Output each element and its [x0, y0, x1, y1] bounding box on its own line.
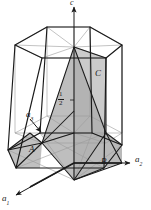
point-label-A: A: [29, 145, 35, 154]
point-label-C: C: [95, 69, 101, 78]
axis-label-a1: a1: [2, 194, 9, 205]
axis-label-a3: a3: [26, 110, 33, 121]
hexagonal-unit-cell-svg: [0, 0, 151, 210]
edge-left: [8, 45, 15, 150]
fraction-denominator: 2: [58, 100, 64, 107]
axis-label-a1-sub: 1: [7, 200, 10, 206]
fraction-numerator: 1: [58, 91, 64, 98]
figure-canvas: c a1 a2 a3 A B C 1 2: [0, 0, 151, 210]
edge-back-left: [40, 27, 47, 133]
axis-label-a2-sub: 2: [140, 161, 143, 167]
axis-label-a2: a2: [135, 155, 142, 166]
point-label-B: B: [101, 157, 107, 166]
half-intercept-label: 1 2: [58, 91, 64, 107]
axis-label-a3-sub: 3: [31, 116, 34, 122]
top-hexagon: [15, 27, 122, 58]
axis-label-c: c: [70, 0, 74, 7]
